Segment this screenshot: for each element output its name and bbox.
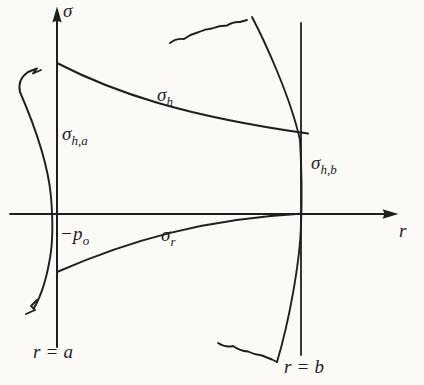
outer-continuation-curve (252, 17, 302, 362)
hoop-stress-at-b-subscript: h,b (321, 162, 337, 177)
hoop-stress-at-b-label: σh,b (311, 153, 337, 172)
inner-break-top-squiggle-icon (19, 69, 41, 93)
inner-radius-label: r = a (33, 342, 73, 361)
hoop-stress-at-a-label: σh,a (62, 124, 88, 143)
sigma-axis-label-text: σ (63, 0, 73, 21)
outer-break-top-squiggle-icon (170, 20, 247, 43)
sigma-axis-label: σ (63, 1, 73, 20)
inner-radius-label-text: r = a (33, 341, 73, 362)
radial-stress-symbol: σ (161, 224, 171, 245)
hoop-stress-curve (57, 63, 308, 134)
hoop-stress-label: σh (157, 85, 173, 104)
inner-continuation-curve (20, 92, 52, 308)
hoop-stress-subscript: h (167, 94, 174, 109)
hoop-stress-at-b-symbol: σ (311, 152, 321, 173)
hoop-stress-at-a-symbol: σ (62, 123, 72, 144)
outer-radius-label: r = b (284, 357, 324, 376)
diagram-svg (0, 0, 424, 385)
r-axis-label: r (399, 221, 407, 240)
stress-distribution-figure: σ r σh σr σh,a σh,b −po r = a r = b (0, 0, 424, 385)
internal-pressure-subscript: o (83, 233, 90, 248)
radial-stress-subscript: r (171, 234, 176, 249)
r-axis-label-text: r (399, 220, 407, 241)
outer-radius-label-text: r = b (284, 356, 324, 377)
internal-pressure-symbol: −p (60, 223, 83, 244)
radial-stress-curve (57, 214, 300, 272)
sigma-axis-arrowhead-icon (52, 7, 61, 23)
radial-stress-label: σr (161, 225, 176, 244)
outer-break-bottom-squiggle-icon (218, 343, 277, 362)
r-axis-arrowhead-icon (383, 209, 399, 219)
internal-pressure-label: −po (60, 224, 89, 243)
hoop-stress-at-a-subscript: h,a (72, 133, 88, 148)
hoop-stress-symbol: σ (157, 84, 167, 105)
